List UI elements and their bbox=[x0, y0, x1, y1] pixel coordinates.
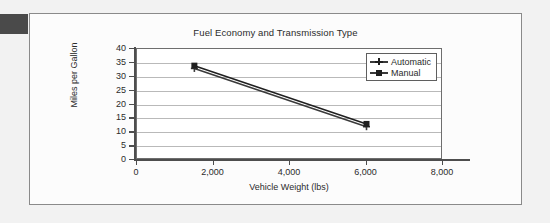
x-tick-mark bbox=[366, 160, 367, 165]
corner-decoration-mark bbox=[0, 14, 28, 34]
x-tick-label: 8,000 bbox=[431, 167, 454, 177]
y-axis-title: Miles per Gallon bbox=[69, 25, 79, 125]
chart-legend: Automatic Manual bbox=[366, 53, 437, 81]
x-tick-mark bbox=[442, 160, 443, 165]
legend-item-automatic: Automatic bbox=[370, 56, 431, 67]
chart-title: Fuel Economy and Transmission Type bbox=[30, 27, 521, 38]
y-tick-mark bbox=[129, 104, 134, 105]
data-point-marker-square bbox=[191, 63, 197, 69]
legend-label-automatic: Automatic bbox=[391, 57, 431, 67]
series-line-automatic bbox=[194, 68, 366, 126]
legend-marker-square-icon bbox=[370, 67, 388, 78]
x-tick-mark bbox=[289, 160, 290, 165]
y-tick-mark bbox=[129, 145, 134, 146]
y-tick-mark bbox=[129, 90, 134, 91]
y-tick-mark bbox=[129, 159, 134, 160]
y-tick-label: 0 bbox=[90, 154, 126, 164]
y-tick-label: 10 bbox=[90, 126, 126, 136]
y-tick-label: 20 bbox=[90, 99, 126, 109]
y-tick-mark bbox=[129, 62, 134, 63]
y-tick-label: 5 bbox=[90, 140, 126, 150]
y-tick-label: 40 bbox=[90, 43, 126, 53]
x-tick-mark bbox=[213, 160, 214, 165]
x-tick-label: 2,000 bbox=[201, 167, 224, 177]
y-tick-label: 35 bbox=[90, 57, 126, 67]
x-axis-title: Vehicle Weight (lbs) bbox=[136, 182, 442, 192]
x-tick-label: 6,000 bbox=[354, 167, 377, 177]
chart-card: Fuel Economy and Transmission Type Miles… bbox=[29, 13, 522, 205]
x-tick-mark bbox=[136, 160, 137, 165]
y-tick-mark bbox=[129, 117, 134, 118]
legend-marker-cross-icon bbox=[370, 56, 388, 67]
y-tick-label: 25 bbox=[90, 85, 126, 95]
legend-label-manual: Manual bbox=[391, 68, 421, 78]
y-tick-mark bbox=[129, 131, 134, 132]
x-tick-label: 0 bbox=[133, 167, 138, 177]
data-point-marker-square bbox=[364, 121, 370, 127]
plot-area: Automatic Manual bbox=[136, 48, 442, 159]
series-line-manual bbox=[194, 66, 366, 124]
legend-item-manual: Manual bbox=[370, 67, 431, 78]
y-tick-mark bbox=[129, 76, 134, 77]
y-tick-label: 30 bbox=[90, 71, 126, 81]
y-tick-mark bbox=[129, 48, 134, 49]
x-tick-label: 4,000 bbox=[278, 167, 301, 177]
y-tick-label: 15 bbox=[90, 112, 126, 122]
